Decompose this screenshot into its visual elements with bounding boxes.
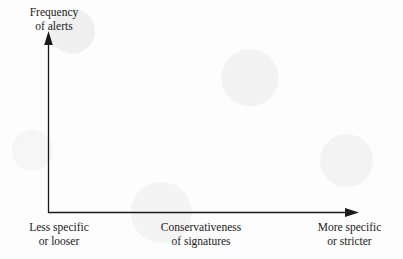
- y-axis: [44, 31, 53, 213]
- x-axis-label-center-line-1: Conservativeness: [141, 221, 261, 235]
- x-axis-label-right-line-1: More specific: [296, 221, 403, 235]
- x-axis-label-left-line-2: or looser: [0, 235, 118, 249]
- x-axis-label-right: More specific or stricter: [296, 221, 403, 248]
- x-axis-label-center-line-2: of signatures: [141, 235, 261, 249]
- x-axis-arrowhead-icon: [345, 208, 359, 217]
- x-axis-label-center: Conservativeness of signatures: [141, 221, 261, 248]
- y-axis-label: Frequency of alerts: [8, 6, 100, 33]
- x-axis-label-right-line-2: or stricter: [296, 235, 403, 249]
- y-axis-label-line-2: of alerts: [8, 20, 100, 34]
- figure-canvas: Frequency of alerts Less specific or loo…: [0, 0, 403, 259]
- x-axis: [48, 208, 359, 217]
- y-axis-label-line-1: Frequency: [8, 6, 100, 20]
- x-axis-label-left-line-1: Less specific: [0, 221, 118, 235]
- x-axis-label-left: Less specific or looser: [0, 221, 118, 248]
